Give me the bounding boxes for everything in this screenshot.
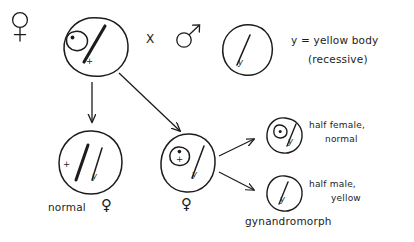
legend-line-1: y = yellow body [291,34,379,46]
half-male-line-2: yellow [331,193,361,203]
half-female-cell-shape [267,118,302,153]
normal-female-caption: normal [48,201,86,213]
ring-female-caption-symbol: ♀ [181,197,192,212]
half-female-line-1: half female, [309,120,365,130]
allele-label-normal-female-y: y [92,172,97,182]
ring-female-zygote-cell [161,134,215,192]
half-female-line-2: normal [325,134,358,144]
male-symbol-parent [177,25,200,47]
female-symbol-parent [13,13,28,41]
gynandromorph-caption: gynandromorph [245,215,332,227]
allele-label-normal-female-plus: + [63,160,70,170]
male-parent-cell [223,25,273,76]
half-male-line-1: half male, [309,179,356,189]
arrow-ring-female-to-half-male [219,172,254,190]
cross-symbol: X [146,33,154,47]
allele-label-ring-female-plus: + [176,155,183,165]
arrow-parent-to-ring-female [119,73,180,131]
ring-chromosome-half-female [274,125,287,138]
arrow-ring-female-to-half-female [219,139,254,156]
allele-label-ring-female-y: y [192,170,197,180]
allele-label-male-parent-y: y [238,58,243,68]
ring-chromosome-parent [66,31,87,50]
allele-label-half-female-y: y [288,137,293,147]
legend-line-2: (recessive) [308,53,368,65]
normal-female-caption-symbol: ♀ [101,198,112,213]
female-parent-cell [64,18,128,77]
allele-label-parent-plus: + [86,57,93,67]
allele-label-half-male-y: y [280,195,285,205]
diagram-canvas: X + y y = yellow body (recessive) + y no… [0,0,414,242]
